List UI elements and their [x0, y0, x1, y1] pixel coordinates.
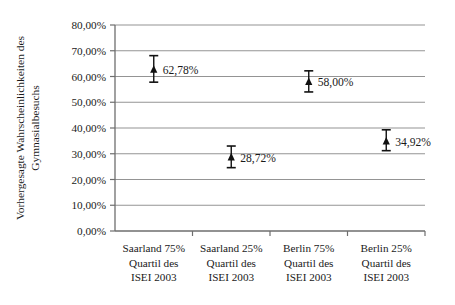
y-tick-label: 70,00%	[72, 45, 107, 57]
x-category-label-line: ISEI 2003	[208, 271, 254, 283]
data-value-label: 62,78%	[163, 64, 199, 77]
y-axis-title-line: Gymnasialbesuchs	[29, 85, 41, 171]
error-bar-chart: 0,00%10,00%20,00%30,00%40,00%50,00%60,00…	[0, 0, 455, 305]
x-category-label-line: Quartil des	[207, 257, 256, 269]
chart-container: 0,00%10,00%20,00%30,00%40,00%50,00%60,00…	[0, 0, 455, 305]
x-category-label-line: Quartil des	[362, 257, 411, 269]
x-category-label-line: Berlin 25%	[361, 242, 412, 254]
data-value-label: 58,00%	[318, 76, 354, 89]
y-tick-label: 20,00%	[72, 174, 107, 186]
x-category-label-line: ISEI 2003	[131, 271, 177, 283]
x-category-label-line: Quartil des	[129, 257, 178, 269]
data-value-label: 28,72%	[240, 152, 276, 165]
x-category-label-line: ISEI 2003	[363, 271, 409, 283]
y-tick-label: 30,00%	[72, 148, 107, 160]
y-tick-label: 60,00%	[72, 71, 107, 83]
y-axis-title-line: Vorhergesagte Wahrscheinlichkeiten des	[14, 36, 26, 220]
y-tick-label: 10,00%	[72, 199, 107, 211]
y-tick-label: 80,00%	[72, 19, 107, 31]
y-tick-label: 0,00%	[77, 225, 106, 237]
x-category-label-line: Berlin 75%	[283, 242, 334, 254]
x-category-label-line: ISEI 2003	[286, 271, 332, 283]
y-tick-label: 50,00%	[72, 96, 107, 108]
x-category-label-line: Saarland 75%	[123, 242, 185, 254]
data-value-label: 34,92%	[395, 136, 431, 149]
y-tick-label: 40,00%	[72, 122, 107, 134]
x-category-label-line: Saarland 25%	[200, 242, 262, 254]
x-category-label-line: Quartil des	[284, 257, 333, 269]
y-axis-tick-labels: 0,00%10,00%20,00%30,00%40,00%50,00%60,00…	[72, 19, 107, 237]
